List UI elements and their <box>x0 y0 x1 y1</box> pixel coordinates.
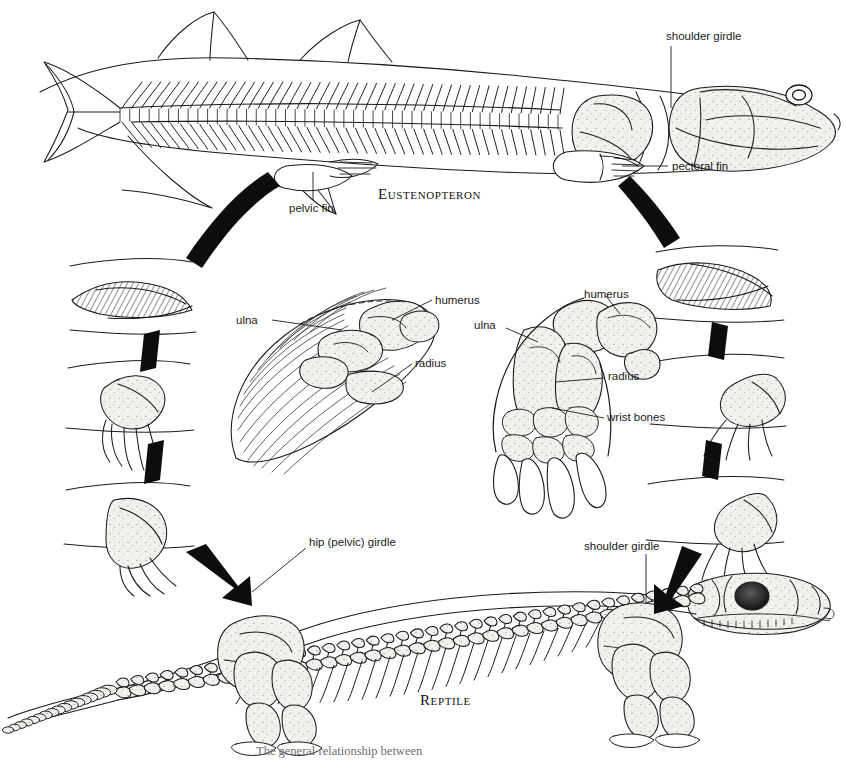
fin-stage-panel-1 <box>654 246 784 322</box>
label-shoulder-girdle-bottom: shoulder girdle <box>584 541 659 553</box>
fin-stage-panel-1 <box>70 259 196 335</box>
reptile-tail <box>3 685 119 733</box>
reptile-forelimb <box>612 644 694 738</box>
reptile-hindlimb <box>234 652 316 746</box>
figure-caption: The general relationship between <box>256 744 816 761</box>
label-shoulder-girdle-top: shoulder girdle <box>666 31 741 43</box>
bold-arrow-left <box>186 544 252 606</box>
fin-stage-panel-3 <box>64 483 194 596</box>
pectoral-fin-skeleton-detail <box>231 288 439 474</box>
neural-spines <box>120 82 564 155</box>
label-ulna-right: ulna <box>474 320 496 332</box>
taxon-name-eustenopteron: Eustenopteron <box>378 186 481 203</box>
short-band-left-1 <box>140 330 160 372</box>
reptile-skull <box>687 573 834 634</box>
fin-stage-panel-2 <box>66 361 194 470</box>
label-pectoral-fin: pectoral fin <box>672 161 728 173</box>
label-radius-left: radius <box>415 358 446 370</box>
label-hip-pelvic-girdle: hip (pelvic) girdle <box>309 537 396 549</box>
leader-hip <box>252 548 306 592</box>
label-pelvic-fin: pelvic fin <box>289 203 334 215</box>
left-fin-sequence <box>64 259 196 596</box>
label-ulna-left: ulna <box>236 315 258 327</box>
curved-arrow-band-right <box>618 176 680 248</box>
taxon-name-reptile: Reptile <box>420 692 471 709</box>
short-band-right-2 <box>702 440 722 480</box>
vertebral-column-fish <box>120 104 562 128</box>
dorsal-fins <box>158 12 392 62</box>
label-radius-right: radius <box>608 371 639 383</box>
anatomical-illustration <box>0 0 846 761</box>
fin-stage-panel-3 <box>646 477 784 582</box>
curved-arrow-band-left <box>186 172 280 268</box>
reptile-skeleton <box>3 573 835 755</box>
figure-canvas: shoulder girdle pectoral fin pelvic fin … <box>0 0 846 761</box>
label-wrist-bones: wrist bones <box>607 412 665 424</box>
caudal-fin <box>44 62 212 208</box>
short-band-left-2 <box>144 440 164 484</box>
label-humerus-right: humerus <box>584 289 629 301</box>
digits-group <box>494 453 607 518</box>
right-fin-sequence <box>646 246 786 582</box>
label-humerus-left: humerus <box>435 295 480 307</box>
forelimb-skeleton-detail <box>493 298 660 518</box>
